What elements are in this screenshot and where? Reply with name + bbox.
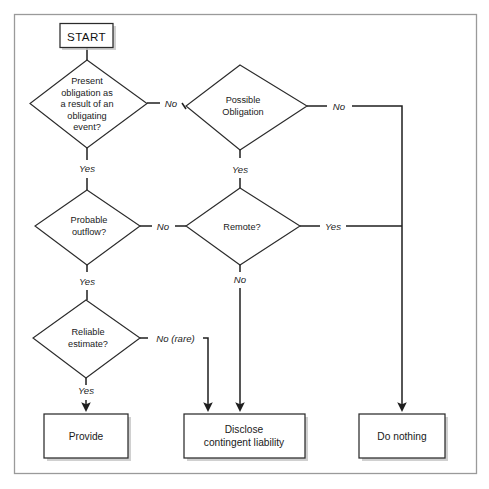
probable-outflow-line-1: Probable [71, 215, 108, 225]
node-present-obligation[interactable]: Present obligation as a result of an obl… [30, 60, 147, 148]
node-disclose[interactable]: Disclose contingent liability [184, 414, 308, 461]
disclose-line-1: Disclose [225, 424, 264, 435]
edge-label-probable-no: No [157, 221, 170, 232]
node-remote[interactable]: Remote? [186, 188, 300, 265]
edge-label-present-no: No [165, 98, 178, 109]
edge-label-remote-no: No [234, 274, 247, 285]
edge-label-reliable-no-rare: No (rare) [156, 333, 194, 344]
possible-obligation-line-2: Obligation [222, 107, 263, 117]
present-obligation-line-1: Present [71, 76, 103, 86]
start-label: START [67, 30, 106, 43]
edge-label-possible-no: No [333, 101, 346, 112]
edge-possible-no-right [352, 106, 402, 410]
present-obligation-line-2: obligation as [61, 88, 113, 98]
provide-label: Provide [69, 431, 104, 442]
edge-label-probable-yes: Yes [79, 276, 95, 287]
node-reliable-estimate[interactable]: Reliable estimate? [33, 300, 140, 378]
edge-label-reliable-yes: Yes [78, 385, 94, 396]
edge-label-present-yes: Yes [79, 163, 95, 174]
node-possible-obligation[interactable]: Possible Obligation [186, 65, 307, 150]
edge-reliable-no-right [203, 338, 208, 410]
edge-label-possible-yes: Yes [232, 164, 248, 175]
present-obligation-line-3: a result of an [60, 99, 113, 109]
node-provide[interactable]: Provide [44, 414, 131, 461]
node-start[interactable]: START [60, 24, 116, 51]
reliable-estimate-line-1: Reliable [71, 327, 104, 337]
disclose-box[interactable] [184, 414, 305, 458]
edge-label-remote-yes: Yes [325, 221, 341, 232]
node-do-nothing[interactable]: Do nothing [359, 414, 448, 461]
present-obligation-line-4: obligating [67, 111, 106, 121]
possible-obligation-line-1: Possible [226, 95, 261, 105]
remote-label: Remote? [223, 222, 260, 232]
probable-outflow-line-2: outflow? [72, 227, 106, 237]
flowchart-svg: No Yes No Yes No Yes Yes No No (rare) Ye… [0, 0, 489, 489]
present-obligation-line-5: event? [73, 122, 101, 132]
node-probable-outflow[interactable]: Probable outflow? [35, 190, 140, 265]
do-nothing-label: Do nothing [377, 431, 427, 442]
disclose-line-2: contingent liability [204, 437, 285, 448]
flowchart-canvas: No Yes No Yes No Yes Yes No No (rare) Ye… [0, 0, 489, 489]
reliable-estimate-line-2: estimate? [68, 339, 108, 349]
